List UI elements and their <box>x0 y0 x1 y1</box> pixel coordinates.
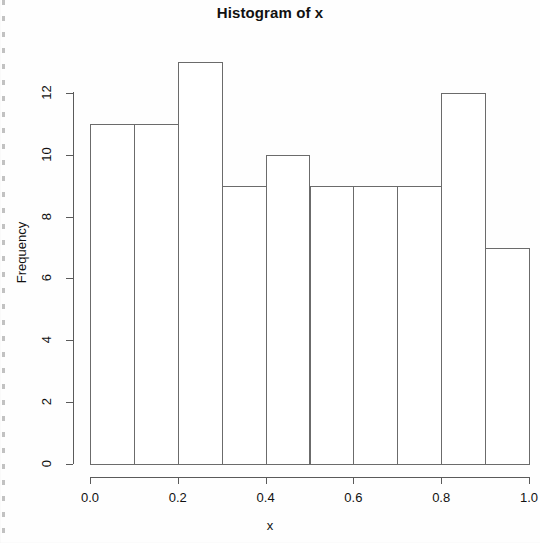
histogram-bar <box>353 186 398 465</box>
histogram-bar <box>441 93 486 465</box>
histogram-bar <box>222 186 267 465</box>
histogram-bar <box>397 186 442 465</box>
histogram-bar <box>310 186 355 465</box>
histogram-bar <box>90 124 135 465</box>
histogram-bars <box>0 0 540 543</box>
histogram-bar <box>266 155 311 465</box>
histogram-bar <box>134 124 179 465</box>
histogram-plot: Histogram of x 024681012 0.00.20.40.60.8… <box>0 0 540 543</box>
histogram-bar <box>178 62 223 465</box>
histogram-bar <box>485 248 530 465</box>
